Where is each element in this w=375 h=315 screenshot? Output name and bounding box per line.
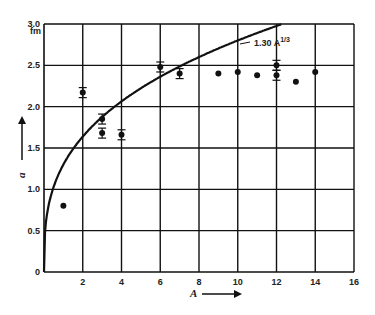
- svg-text:8: 8: [196, 277, 201, 287]
- data-point: [99, 116, 105, 122]
- data-point: [312, 69, 318, 75]
- x-arrow-head-icon: [234, 290, 242, 298]
- y-axis-label: a: [15, 172, 27, 178]
- chart: 24681012141600.51.01.52.02.53.0 fm 1.30 …: [0, 0, 375, 315]
- data-point: [177, 71, 183, 77]
- data-point: [119, 132, 125, 138]
- data-point: [80, 90, 86, 96]
- curve-label-pointer: [240, 42, 250, 44]
- svg-text:2: 2: [80, 277, 85, 287]
- svg-text:2.0: 2.0: [27, 102, 40, 112]
- data-point: [274, 72, 280, 78]
- svg-text:6: 6: [158, 277, 163, 287]
- y-unit: fm: [30, 26, 41, 36]
- curve-label: 1.30 A1/3: [254, 36, 290, 48]
- grid: [44, 24, 354, 272]
- svg-text:1.0: 1.0: [27, 184, 40, 194]
- data-point: [293, 79, 299, 85]
- svg-text:12: 12: [271, 277, 281, 287]
- svg-text:14: 14: [310, 277, 320, 287]
- data-point: [254, 72, 260, 78]
- y-arrow-head-icon: [18, 116, 26, 124]
- x-axis-label: A: [189, 287, 197, 299]
- data-point: [215, 71, 221, 77]
- svg-text:16: 16: [349, 277, 359, 287]
- svg-text:0.5: 0.5: [27, 226, 40, 236]
- data-point: [99, 130, 105, 136]
- data-point: [274, 62, 280, 68]
- data-point: [235, 69, 241, 75]
- svg-text:4: 4: [119, 277, 124, 287]
- svg-text:2.5: 2.5: [27, 60, 40, 70]
- svg-text:1.5: 1.5: [27, 143, 40, 153]
- data-point: [157, 64, 163, 70]
- data-points: [60, 60, 318, 209]
- data-point: [60, 203, 66, 209]
- svg-text:0: 0: [35, 267, 40, 277]
- svg-text:10: 10: [233, 277, 243, 287]
